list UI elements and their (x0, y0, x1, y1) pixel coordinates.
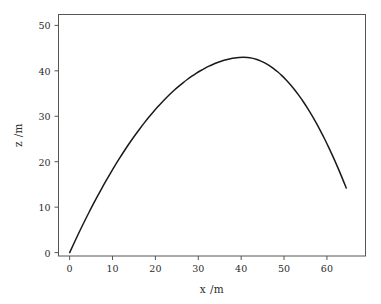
y-axis-title: z /m (12, 123, 24, 147)
y-tick-label: 0 (44, 247, 50, 258)
x-axis-title: x /m (200, 283, 224, 295)
x-tick-label: 40 (235, 263, 247, 274)
x-tick-label: 30 (192, 263, 204, 274)
x-tick-label: 50 (278, 263, 290, 274)
x-tick-label: 10 (106, 263, 118, 274)
y-tick-label: 20 (38, 156, 50, 167)
x-tick-label: 60 (321, 263, 333, 274)
x-tick-label: 0 (67, 263, 73, 274)
x-tick-label: 20 (149, 263, 161, 274)
y-tick-label: 10 (38, 202, 50, 213)
figure: 0102030405060 01020304050 x /m z /m (0, 0, 381, 304)
axes-frame (59, 15, 366, 257)
y-tick-label: 30 (38, 111, 50, 122)
y-tick-label: 50 (38, 20, 50, 31)
plot-canvas (0, 0, 381, 304)
y-tick-label: 40 (38, 65, 50, 76)
